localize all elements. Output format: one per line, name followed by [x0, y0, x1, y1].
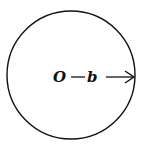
radius-label: b [87, 68, 98, 86]
center-label: O [53, 68, 66, 86]
circle-outline [7, 11, 135, 139]
circle-diagram: O b [0, 0, 144, 146]
